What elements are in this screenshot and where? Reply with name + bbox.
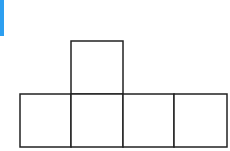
net-square-bottom-2 — [71, 94, 123, 147]
net-square-bottom-3 — [123, 94, 174, 147]
cube-net-diagram — [0, 0, 230, 151]
net-square-bottom-4 — [174, 94, 227, 147]
net-squares — [20, 41, 227, 147]
net-square-bottom-1 — [20, 94, 71, 147]
net-square-top — [71, 41, 123, 94]
